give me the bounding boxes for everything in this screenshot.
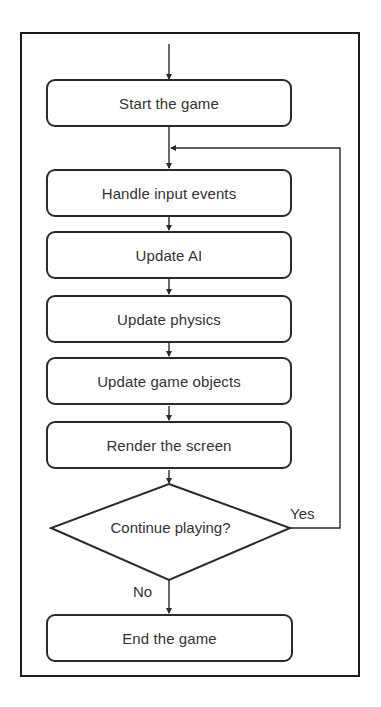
edge-label-yes: Yes: [290, 505, 314, 522]
node-label: Handle input events: [102, 185, 237, 202]
node-start-the-game: Start the game: [46, 79, 292, 127]
node-update-game-objects: Update game objects: [46, 357, 292, 405]
node-end-the-game: End the game: [46, 614, 293, 662]
node-label: Start the game: [119, 95, 219, 112]
node-update-ai: Update AI: [46, 231, 292, 279]
edge-label-no: No: [133, 583, 152, 600]
node-label: Update physics: [117, 311, 221, 328]
decision-label: Continue playing?: [51, 519, 290, 536]
node-update-physics: Update physics: [46, 295, 292, 343]
node-label: Render the screen: [106, 437, 231, 454]
node-label: End the game: [122, 630, 217, 647]
node-render-the-screen: Render the screen: [46, 421, 292, 469]
node-label: Update AI: [136, 247, 203, 264]
node-handle-input-events: Handle input events: [46, 169, 292, 217]
node-label: Update game objects: [97, 373, 241, 390]
